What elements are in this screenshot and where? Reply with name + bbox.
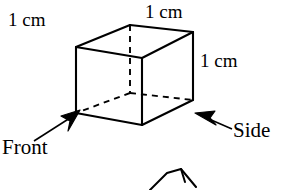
cube-hidden-edge-bottom-right bbox=[130, 93, 193, 100]
partial-figure-below bbox=[150, 169, 196, 190]
cube-edge-top-back-right bbox=[130, 25, 193, 32]
cube-hidden-edges bbox=[76, 25, 193, 113]
side-arrow bbox=[195, 111, 232, 129]
cube-edge-bottom-front-right bbox=[142, 100, 193, 125]
cube-hidden-edge-bottom-left bbox=[76, 93, 130, 113]
view-label-front: Front bbox=[2, 137, 48, 158]
dimension-label-vertical-right: 1 cm bbox=[200, 51, 237, 70]
cube-visible-edges bbox=[76, 25, 193, 125]
partial-figure-outline bbox=[150, 169, 196, 190]
cube-edge-top-left-back bbox=[76, 25, 130, 47]
dimension-label-top-left: 1 cm bbox=[8, 10, 45, 29]
dimension-label-top-right: 1 cm bbox=[145, 2, 182, 21]
cube-edge-top-front-left bbox=[76, 47, 142, 58]
cube-edge-top-right-front bbox=[142, 32, 193, 58]
side-arrow-head bbox=[195, 111, 216, 125]
cube-edge-bottom-left-front bbox=[76, 113, 142, 125]
view-label-side: Side bbox=[233, 120, 270, 141]
front-arrow-head bbox=[61, 110, 80, 131]
cube-figure: 1 cm 1 cm 1 cm Front Side bbox=[0, 0, 288, 190]
